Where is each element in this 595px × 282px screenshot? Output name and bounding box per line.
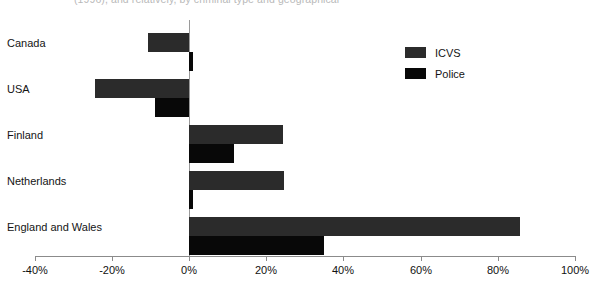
axis-tick-label: -20% [99, 264, 125, 276]
caption-strip: (1996), and relatively, by criminal type… [0, 0, 595, 11]
legend-label: Police [435, 68, 465, 80]
legend-item-police: Police [405, 65, 515, 82]
bar-police-canada [189, 52, 193, 71]
caption-text: (1996), and relatively, by criminal type… [74, 0, 339, 5]
legend: ICVSPolice [405, 44, 515, 86]
bar-icvs-netherlands [189, 171, 284, 190]
axis-tick [498, 256, 499, 261]
axis-tick [35, 256, 36, 261]
axis-tick [575, 256, 576, 261]
legend-swatch-icvs [405, 47, 426, 58]
bar-chart: (1996), and relatively, by criminal type… [0, 0, 595, 282]
legend-label: ICVS [435, 47, 461, 59]
axis-tick [421, 256, 422, 261]
bar-icvs-usa [95, 79, 189, 98]
x-axis-line [35, 256, 575, 257]
axis-tick-label: 0% [181, 264, 197, 276]
bar-police-usa [155, 98, 189, 117]
bar-icvs-finland [189, 125, 283, 144]
bar-police-finland [189, 144, 234, 163]
plot-area: CanadaUSAFinlandNetherlandsEngland and W… [0, 11, 595, 282]
axis-tick [266, 256, 267, 261]
legend-item-icvs: ICVS [405, 44, 515, 61]
axis-tick-label: 80% [487, 264, 509, 276]
bar-police-netherlands [189, 190, 193, 209]
axis-tick-label: 40% [332, 264, 354, 276]
axis-tick-label: -40% [22, 264, 48, 276]
bar-police-england-and-wales [189, 236, 324, 255]
axis-tick-label: 60% [410, 264, 432, 276]
legend-swatch-police [405, 68, 426, 79]
bar-icvs-canada [148, 33, 189, 52]
axis-tick-label: 20% [255, 264, 277, 276]
axis-tick-label: 100% [561, 264, 589, 276]
axis-tick [112, 256, 113, 261]
axis-tick [189, 256, 190, 261]
axis-tick [343, 256, 344, 261]
bar-icvs-england-and-wales [189, 217, 520, 236]
